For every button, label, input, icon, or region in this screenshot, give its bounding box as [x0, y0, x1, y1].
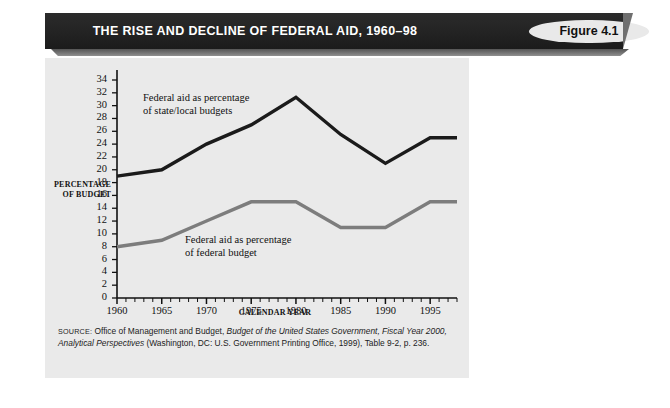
source-note-text-b: (Washington, DC: U.S. Government Printin… — [144, 338, 362, 348]
y-tick-label: 30 — [85, 99, 107, 110]
y-tick-label: 32 — [85, 86, 107, 97]
source-note: SOURCE: Office of Management and Budget,… — [58, 326, 458, 349]
y-tick-label: 26 — [85, 124, 107, 135]
y-tick-label: 0 — [85, 291, 107, 302]
chart-panel: 0246810121416182022242628303234196019651… — [45, 58, 469, 378]
y-tick-label: 28 — [85, 111, 107, 122]
series-label-federal-budget-line1: Federal aid as percentage — [185, 234, 291, 245]
x-axis-title: CALENDAR YEAR — [195, 308, 355, 317]
y-tick-label: 24 — [85, 137, 107, 148]
y-tick-label: 2 — [85, 278, 107, 289]
x-tick-label: 1960 — [99, 305, 135, 316]
x-tick-label: 1965 — [144, 305, 180, 316]
series-label-federal-budget-line2: of federal budget — [185, 247, 257, 258]
y-tick-label: 20 — [85, 163, 107, 174]
y-tick-label: 14 — [85, 201, 107, 212]
source-note-text-c: Table 9-2, p. 236. — [365, 338, 430, 348]
y-tick-label: 34 — [85, 73, 107, 84]
x-tick-label: 1990 — [367, 305, 403, 316]
source-note-label: SOURCE: — [58, 327, 92, 336]
y-tick-label: 4 — [85, 265, 107, 276]
series-label-state-local-line2: of state/local budgets — [143, 105, 232, 116]
y-tick-label: 12 — [85, 214, 107, 225]
y-tick-label: 6 — [85, 253, 107, 264]
series-label-federal-budget: Federal aid as percentage of federal bud… — [185, 233, 291, 259]
series-label-state-local: Federal aid as percentage of state/local… — [143, 91, 249, 117]
figure-header-bar: THE RISE AND DECLINE OF FEDERAL AID, 196… — [45, 13, 623, 49]
header-bevel-right — [623, 13, 633, 49]
y-axis-title: PERCENTAGE OF BUDGET — [45, 180, 111, 200]
source-note-text-a: Office of Management and Budget, — [92, 326, 226, 336]
y-axis-title-line1: PERCENTAGE — [54, 180, 111, 189]
header-bevel-bottom — [51, 49, 629, 56]
page-title: THE RISE AND DECLINE OF FEDERAL AID, 196… — [45, 13, 465, 49]
y-tick-label: 8 — [85, 240, 107, 251]
series-label-state-local-line1: Federal aid as percentage — [143, 92, 249, 103]
y-tick-label: 10 — [85, 227, 107, 238]
source-note-italic-1: Budget of the United States Government, … — [227, 326, 404, 336]
y-tick-label: 22 — [85, 150, 107, 161]
x-tick-label: 1995 — [412, 305, 448, 316]
y-axis-title-line2: OF BUDGET — [63, 190, 111, 199]
